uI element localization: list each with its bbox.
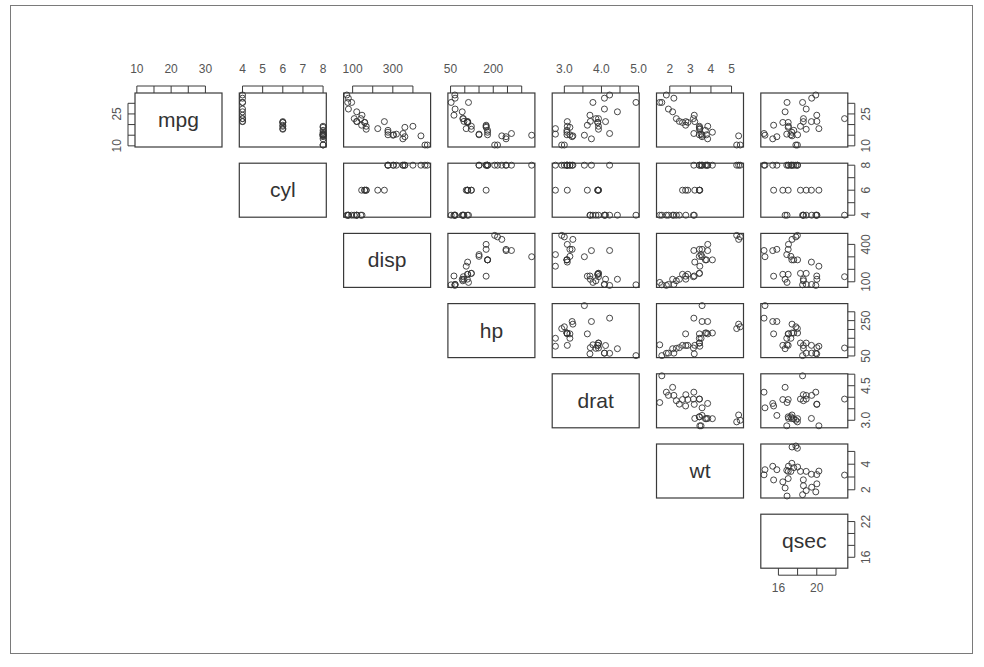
diag-panel-wt: wt xyxy=(657,444,744,498)
diag-panel-qsec: qsec xyxy=(761,514,848,568)
panel-drat-vs-qsec xyxy=(761,373,848,429)
diag-panel-cyl: cyl xyxy=(239,163,326,217)
panel-cyl-vs-disp xyxy=(344,162,431,218)
panel-cyl-vs-wt xyxy=(657,162,744,218)
panel-drat-vs-wt xyxy=(657,373,744,429)
variable-label: mpg xyxy=(158,108,199,131)
right-axis-tick-label: 4.5 xyxy=(859,377,873,394)
variable-label: qsec xyxy=(782,529,826,552)
right-axis-tick-label: 25 xyxy=(859,107,873,121)
top-axis-tick-label: 4.0 xyxy=(593,62,610,76)
variable-label: drat xyxy=(578,389,614,412)
variable-label: hp xyxy=(480,319,503,342)
top-axis-tick-label: 6 xyxy=(279,62,286,76)
panel-cyl-vs-drat xyxy=(552,162,639,218)
top-axis-tick-label: 20 xyxy=(164,62,178,76)
panel-mpg-vs-wt xyxy=(657,92,744,148)
top-axis-tick-label: 30 xyxy=(199,62,213,76)
panel-hp-vs-drat xyxy=(552,303,639,359)
right-axis-tick-label: 8 xyxy=(859,162,873,169)
right-axis-tick-label: 2 xyxy=(859,486,873,493)
panel-hp-vs-qsec xyxy=(761,303,848,359)
panel-wt-vs-qsec xyxy=(761,443,848,499)
panel-disp-vs-wt xyxy=(657,232,744,288)
bottom-axis-tick-label: 20 xyxy=(810,581,824,595)
right-axis-tick-label: 100 xyxy=(859,271,873,291)
right-axis-tick-label: 10 xyxy=(859,139,873,153)
left-axis-tick-label: 10 xyxy=(110,139,124,153)
panel-mpg-vs-hp xyxy=(448,92,535,148)
right-axis-tick-label: 3.0 xyxy=(859,412,873,429)
top-axis-tick-label: 4 xyxy=(708,62,715,76)
right-axis-tick-label: 22 xyxy=(859,515,873,529)
bottom-axis-tick-label: 16 xyxy=(772,581,786,595)
variable-label: disp xyxy=(368,248,407,271)
right-axis-tick-label: 16 xyxy=(859,550,873,564)
right-axis-tick-label: 400 xyxy=(859,234,873,254)
diag-panel-drat: drat xyxy=(552,374,639,428)
right-axis-tick-label: 6 xyxy=(859,187,873,194)
panel-mpg-vs-drat xyxy=(552,92,639,148)
top-axis-tick-label: 7 xyxy=(300,62,307,76)
top-axis-tick-label: 2 xyxy=(666,62,673,76)
top-axis-tick-label: 3.0 xyxy=(556,62,573,76)
top-axis-tick-label: 200 xyxy=(483,62,503,76)
top-axis-tick-label: 3 xyxy=(687,62,694,76)
diag-panel-mpg: mpg xyxy=(135,93,222,147)
panel-disp-vs-drat xyxy=(552,232,639,288)
top-axis-tick-label: 4 xyxy=(239,62,246,76)
panel-mpg-vs-cyl xyxy=(239,92,326,148)
panel-mpg-vs-qsec xyxy=(761,92,848,148)
top-axis-tick-label: 5 xyxy=(728,62,735,76)
top-axis-tick-label: 5 xyxy=(259,62,266,76)
right-axis-tick-label: 50 xyxy=(859,349,873,363)
top-axis-tick-label: 50 xyxy=(444,62,458,76)
diag-panel-disp: disp xyxy=(344,233,431,287)
panel-disp-vs-hp xyxy=(448,232,535,288)
right-axis-tick-label: 250 xyxy=(859,310,873,330)
top-axis-tick-label: 300 xyxy=(383,62,403,76)
top-axis-tick-label: 100 xyxy=(343,62,363,76)
top-axis-tick-label: 10 xyxy=(130,62,144,76)
scatterplot-matrix: mpgcyldisphpdratwtqsec102030456781003005… xyxy=(0,0,984,667)
panel-cyl-vs-qsec xyxy=(761,162,848,218)
variable-label: wt xyxy=(689,459,711,482)
variable-label: cyl xyxy=(270,178,296,201)
top-axis-tick-label: 8 xyxy=(320,62,327,76)
panel-disp-vs-qsec xyxy=(761,232,848,288)
panel-mpg-vs-disp xyxy=(344,92,431,148)
top-axis-tick-label: 5.0 xyxy=(630,62,647,76)
left-axis-tick-label: 25 xyxy=(110,107,124,121)
panel-cyl-vs-hp xyxy=(448,162,535,218)
diag-panel-hp: hp xyxy=(448,304,535,358)
right-axis-tick-label: 4 xyxy=(859,461,873,468)
panel-hp-vs-wt xyxy=(657,303,744,359)
right-axis-tick-label: 4 xyxy=(859,212,873,219)
